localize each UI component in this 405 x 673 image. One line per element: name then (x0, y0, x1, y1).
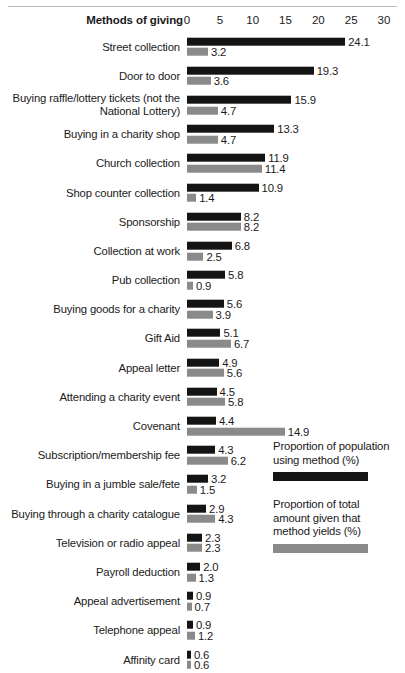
bar-line: 3.6 (187, 77, 405, 85)
bar-a (187, 37, 345, 45)
bar-b (187, 398, 225, 406)
bar-line: 5.8 (187, 398, 405, 406)
bar-a (187, 329, 220, 337)
bar-line: 5.6 (187, 369, 405, 377)
bar-group: 5.80.9 (187, 271, 405, 290)
bar-group: 0.91.2 (187, 621, 405, 640)
category-label: Gift Aid (145, 332, 180, 345)
bar-group: 13.34.7 (187, 125, 405, 144)
category-label: Affinity card (123, 653, 180, 666)
x-tick-15: 15 (279, 14, 292, 26)
bar-a (187, 446, 215, 454)
bar-line: 4.5 (187, 388, 405, 396)
category-label: Church collection (96, 157, 180, 170)
bar-value-label: 14.9 (285, 425, 309, 437)
legend-label: Proportion of total amount given that me… (273, 498, 405, 539)
axis-title: Methods of giving (86, 14, 183, 26)
category-label: Appeal letter (119, 361, 180, 374)
bar-value-label: 1.3 (196, 571, 214, 583)
bar-value-label: 0.6 (191, 659, 209, 671)
bar-value-label: 4.7 (218, 133, 236, 145)
category-label: Buying in a charity shop (64, 128, 180, 141)
bar-value-label: 0.7 (192, 600, 210, 612)
chart-row: Payroll deduction2.01.3 (0, 557, 405, 586)
category-label: Buying in a jumble sale/fete (46, 478, 180, 491)
chart-legend: Proportion of population using method (%… (273, 440, 405, 553)
bar-line: 14.9 (187, 427, 405, 435)
category-label: Attending a charity event (59, 391, 180, 404)
bar-line: 4.7 (187, 135, 405, 143)
bar-line: 1.4 (187, 194, 405, 202)
bar-value-label: 0.9 (193, 279, 211, 291)
bar-line: 24.1 (187, 37, 405, 45)
bar-line: 0.9 (187, 281, 405, 289)
bar-a (187, 96, 291, 104)
bar-value-label: 2.3 (202, 542, 220, 554)
bar-a (187, 533, 202, 541)
chart-row: Telephone appeal0.91.2 (0, 616, 405, 645)
bar-b (187, 48, 208, 56)
chart-row: Pub collection5.80.9 (0, 266, 405, 295)
bar-value-label: 1.4 (196, 192, 214, 204)
chart-row: Covenant4.414.9 (0, 411, 405, 440)
chart-row: Appeal letter4.95.6 (0, 353, 405, 382)
legend-swatch (273, 544, 368, 553)
bar-value-label: 2.5 (203, 250, 221, 262)
category-label: Appeal advertisement (74, 595, 180, 608)
bar-line: 15.9 (187, 96, 405, 104)
bar-value-label: 6.2 (228, 455, 246, 467)
category-label: Collection at work (94, 245, 180, 258)
bar-value-label: 10.9 (259, 181, 283, 193)
category-label: Street collection (102, 40, 180, 53)
bar-line: 10.9 (187, 183, 405, 191)
bar-value-label: 8.2 (241, 221, 259, 233)
bar-value-label: 5.8 (225, 269, 243, 281)
bar-line: 2.0 (187, 563, 405, 571)
category-label: Door to door (119, 69, 180, 82)
category-label: Covenant (133, 420, 180, 433)
bar-line: 11.4 (187, 165, 405, 173)
category-label: Buying raffle/lottery tickets (not the N… (13, 92, 180, 117)
bar-line: 13.3 (187, 125, 405, 133)
category-label: Sponsorship (119, 215, 180, 228)
x-tick-0: 0 (184, 14, 190, 26)
bar-group: 24.13.2 (187, 37, 405, 56)
bar-value-label: 4.3 (215, 513, 233, 525)
bar-a (187, 212, 241, 220)
bar-line: 0.6 (187, 661, 405, 669)
bar-line: 5.1 (187, 329, 405, 337)
legend-item: Proportion of total amount given that me… (273, 498, 405, 553)
bar-value-label: 3.6 (211, 75, 229, 87)
bar-line: 6.7 (187, 340, 405, 348)
bar-value-label: 6.7 (231, 338, 249, 350)
bar-value-label: 3.9 (213, 309, 231, 321)
category-label: Payroll deduction (96, 566, 180, 579)
bar-line: 0.7 (187, 602, 405, 610)
bar-value-label: 4.7 (218, 104, 236, 116)
bar-group: 0.60.6 (187, 650, 405, 669)
chart-row: Street collection24.13.2 (0, 32, 405, 61)
category-label: Television or radio appeal (56, 536, 180, 549)
bar-value-label: 5.6 (224, 367, 242, 379)
x-tick-20: 20 (312, 14, 325, 26)
bar-b (187, 77, 211, 85)
legend-item: Proportion of population using method (%… (273, 440, 405, 481)
bar-group: 15.94.7 (187, 96, 405, 115)
bar-b (187, 486, 197, 494)
chart-row: Attending a charity event4.55.8 (0, 382, 405, 411)
category-label: Subscription/membership fee (38, 449, 180, 462)
bar-a (187, 388, 217, 396)
bar-a (187, 242, 232, 250)
category-label: Buying goods for a charity (53, 303, 180, 316)
x-tick-30: 30 (378, 14, 391, 26)
bar-line: 11.9 (187, 154, 405, 162)
legend-swatch (273, 472, 368, 481)
chart-row: Buying raffle/lottery tickets (not the N… (0, 90, 405, 119)
bar-line: 1.2 (187, 632, 405, 640)
bar-value-label: 24.1 (345, 35, 369, 47)
bar-line: 2.5 (187, 252, 405, 260)
bar-value-label: 13.3 (274, 123, 298, 135)
bar-b (187, 515, 215, 523)
chart-row: Collection at work6.82.5 (0, 236, 405, 265)
